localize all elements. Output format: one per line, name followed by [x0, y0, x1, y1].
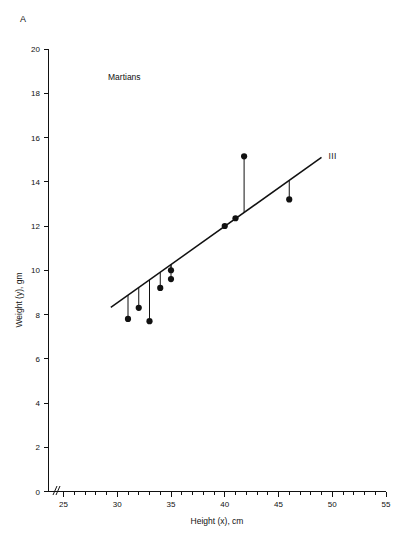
y-tick-label: 0 [36, 488, 41, 497]
x-tick-label: 50 [328, 500, 337, 509]
data-point [136, 305, 142, 311]
data-point [241, 153, 247, 159]
data-point [125, 316, 131, 322]
y-tick-label: 8 [36, 311, 41, 320]
x-tick-label: 40 [220, 500, 229, 509]
group-label: Martians [108, 72, 141, 82]
y-tick-label: 6 [36, 355, 41, 364]
data-point [146, 318, 152, 324]
data-point [157, 285, 163, 291]
panel-label: A [20, 14, 26, 24]
x-tick-label: 25 [59, 500, 68, 509]
y-tick-label: 10 [31, 266, 40, 275]
y-tick-label: 2 [36, 443, 41, 452]
data-point [168, 267, 174, 273]
y-tick-label: 4 [36, 399, 41, 408]
x-tick-label: 35 [167, 500, 176, 509]
y-tick-label: 20 [31, 45, 40, 54]
x-axis-title: Height (x), cm [191, 516, 244, 526]
y-tick-label: 12 [31, 222, 40, 231]
scatter-plot-svg: A Martians 02468101214161820 Weight (y),… [0, 0, 404, 540]
x-tick-label: 45 [274, 500, 283, 509]
series-label-iii: III [329, 151, 337, 161]
figure-panel: A Martians 02468101214161820 Weight (y),… [0, 0, 404, 540]
plot-background [0, 0, 404, 540]
y-tick-label: 18 [31, 89, 40, 98]
data-point [168, 276, 174, 282]
y-axis-title: Weight (y), gm [14, 272, 24, 327]
data-point [232, 215, 238, 221]
data-point [286, 196, 292, 202]
data-point [222, 223, 228, 229]
y-tick-label: 16 [31, 134, 40, 143]
y-tick-label: 14 [31, 178, 40, 187]
x-tick-label: 55 [382, 500, 391, 509]
x-tick-label: 30 [113, 500, 122, 509]
